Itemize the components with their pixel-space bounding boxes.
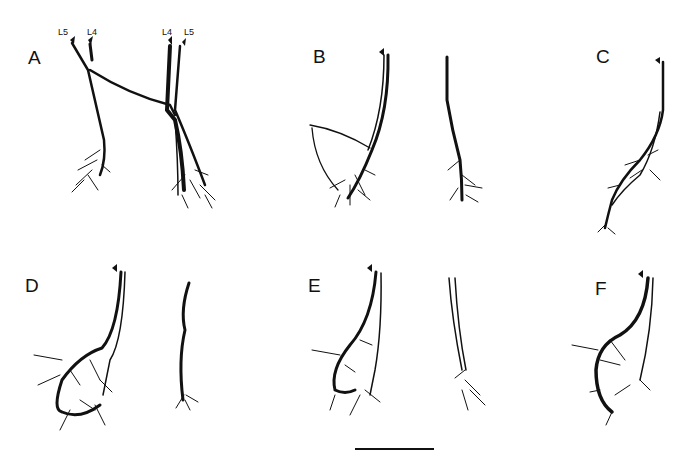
panel-c-drawing bbox=[598, 57, 663, 234]
panel-f-drawing bbox=[572, 270, 653, 425]
panel-e-drawing bbox=[312, 264, 485, 415]
panel-b-drawing bbox=[310, 48, 482, 207]
scale-bar bbox=[355, 448, 434, 450]
nerve-drawings bbox=[0, 0, 696, 462]
panel-a-drawing bbox=[70, 36, 215, 208]
panel-d-drawing bbox=[34, 264, 198, 430]
